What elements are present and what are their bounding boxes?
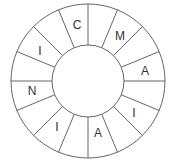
segment-letter: M — [115, 29, 125, 43]
letter-wheel-diagram: CMAIAINI — [0, 0, 174, 163]
segment-letter: I — [38, 44, 41, 58]
segment-divider — [102, 114, 118, 152]
wheel-svg: CMAIAINI — [0, 0, 174, 163]
segment-divider — [59, 114, 75, 152]
segment-divider — [17, 52, 55, 68]
segment-letter: I — [55, 120, 58, 134]
segment-letter: N — [28, 84, 37, 98]
inner-circle — [52, 45, 124, 117]
segment-divider — [121, 95, 159, 111]
segment-divider — [113, 106, 142, 135]
segment-letter: I — [132, 106, 135, 120]
segment-letter: C — [73, 18, 82, 32]
segment-letter: A — [94, 126, 102, 140]
segment-letter: A — [141, 64, 149, 78]
